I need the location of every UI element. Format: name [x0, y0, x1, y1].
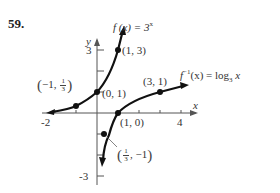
point-label-3-1: (3, 1) — [143, 76, 167, 87]
y-axis-arrow-icon — [94, 38, 100, 46]
x-axis-label: x — [193, 100, 198, 111]
y-tick-neg3: -3 — [79, 171, 88, 182]
exp-function-label: f (x) = 3x — [113, 21, 153, 33]
point-label-third-neg1: (13, −1) — [117, 148, 152, 163]
x-tick-neg2: -2 — [41, 117, 50, 128]
point-label-neg1-third: (−1, 13) — [37, 78, 72, 93]
x-tick-4: 4 — [177, 117, 183, 128]
point-label-1-0: (1, 0) — [120, 117, 144, 128]
y-tick-3: 3 — [86, 45, 92, 56]
log-arrow-down-icon — [99, 157, 106, 167]
exp-arrow-left-icon — [46, 109, 55, 115]
log-function-label: f−1(x) = log3 x — [180, 69, 240, 84]
point-label-0-1: (0, 1) — [102, 88, 126, 99]
point-label-1-3: (1, 3) — [122, 45, 146, 56]
